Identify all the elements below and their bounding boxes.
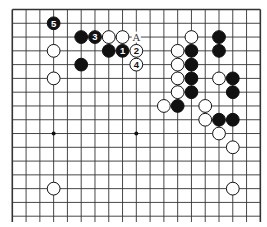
stone-disc	[75, 58, 88, 71]
stone-disc	[226, 86, 239, 99]
stone-disc	[226, 72, 239, 85]
white-stone	[47, 72, 60, 85]
stone-move-number: 2	[134, 45, 139, 56]
stone-disc	[185, 58, 198, 71]
stone-disc	[75, 31, 88, 44]
white-stone	[47, 182, 60, 195]
stone-disc	[171, 100, 184, 113]
stone-disc	[213, 31, 226, 44]
white-stone	[171, 58, 184, 71]
stone-disc	[102, 31, 115, 44]
stone-disc	[185, 72, 198, 85]
white-stone	[213, 72, 226, 85]
stone-disc	[226, 182, 239, 195]
white-stone	[199, 100, 212, 113]
stone-disc	[185, 86, 198, 99]
black-stone	[102, 44, 115, 57]
black-stone	[226, 72, 239, 85]
stone-disc	[213, 72, 226, 85]
white-stone	[157, 100, 170, 113]
black-stone: 5	[47, 17, 60, 30]
white-stone	[171, 72, 184, 85]
stone-disc	[171, 58, 184, 71]
star-point	[134, 132, 138, 136]
stone-move-number: 3	[92, 31, 97, 42]
stone-disc	[185, 31, 198, 44]
black-stone	[185, 44, 198, 57]
white-stone: 2	[130, 44, 143, 57]
black-stone	[185, 72, 198, 85]
stone-disc	[213, 113, 226, 126]
white-stone: 4	[130, 58, 143, 71]
stone-disc	[47, 182, 60, 195]
white-stone	[185, 31, 198, 44]
white-stone	[171, 44, 184, 57]
stone-disc	[226, 113, 239, 126]
stone-disc	[213, 44, 226, 57]
black-stone: 3	[89, 31, 102, 44]
black-stone	[226, 113, 239, 126]
black-stone	[75, 31, 88, 44]
white-stone	[116, 31, 129, 44]
stone-disc	[185, 44, 198, 57]
stone-disc	[171, 72, 184, 85]
stone-move-number: 1	[120, 45, 126, 56]
white-stone	[47, 44, 60, 57]
stone-disc	[199, 100, 212, 113]
stone-disc	[226, 141, 239, 154]
black-stone	[213, 44, 226, 57]
stone-disc	[199, 113, 212, 126]
board-markers: A	[132, 32, 141, 43]
stone-disc	[47, 44, 60, 57]
stone-disc	[171, 86, 184, 99]
white-stone	[226, 141, 239, 154]
white-stone	[226, 182, 239, 195]
point-marker-label: A	[132, 32, 141, 43]
stone-disc	[47, 72, 60, 85]
stone-move-number: 4	[134, 59, 140, 70]
black-stone	[185, 58, 198, 71]
go-board: A 53124	[0, 0, 267, 227]
stone-disc	[102, 44, 115, 57]
stone-disc	[157, 100, 170, 113]
white-stone	[199, 113, 212, 126]
stone-disc	[213, 127, 226, 140]
stone-disc	[171, 44, 184, 57]
star-point	[52, 132, 56, 136]
black-stone	[75, 58, 88, 71]
black-stone	[213, 113, 226, 126]
white-stone	[213, 127, 226, 140]
black-stone	[171, 100, 184, 113]
black-stone	[226, 86, 239, 99]
white-stone	[171, 86, 184, 99]
black-stone	[213, 31, 226, 44]
black-stone	[185, 86, 198, 99]
black-stone: 1	[116, 44, 129, 57]
stone-disc	[116, 31, 129, 44]
stone-move-number: 5	[51, 18, 57, 29]
white-stone	[102, 31, 115, 44]
